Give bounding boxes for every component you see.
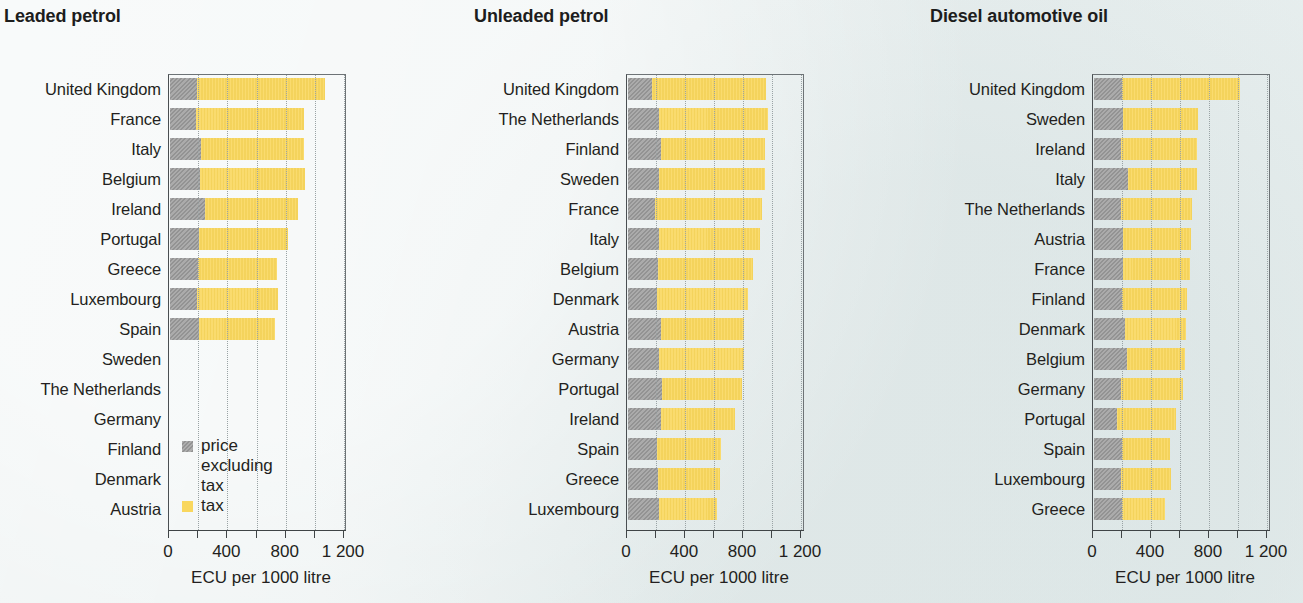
bar-track xyxy=(168,284,346,314)
axis-tick xyxy=(343,530,344,538)
bar-track xyxy=(168,194,346,224)
axis-tick xyxy=(1179,530,1180,538)
bar-row: Portugal xyxy=(880,404,1270,434)
category-label: Ireland xyxy=(0,201,168,218)
axis-tick-label: 0 xyxy=(1087,542,1096,562)
legend-label-tax: tax xyxy=(201,496,224,516)
category-label: Denmark xyxy=(0,471,168,488)
category-label: Sweden xyxy=(0,351,168,368)
category-label: Greece xyxy=(440,471,626,488)
bar-segment-price-excluding-tax xyxy=(1094,258,1124,280)
bar-segment-tax xyxy=(199,228,289,250)
axis-caption: ECU per 1000 litre xyxy=(1115,568,1255,588)
bar-row: Belgium xyxy=(0,164,346,194)
category-label: France xyxy=(0,111,168,128)
bar-segment-tax xyxy=(1123,258,1190,280)
axis-tick xyxy=(1150,530,1151,538)
bar-segment-price-excluding-tax xyxy=(628,288,658,310)
category-label: Spain xyxy=(0,321,168,338)
bar-row: Austria xyxy=(880,224,1270,254)
bar-track xyxy=(168,134,346,164)
bar-segment-price-excluding-tax xyxy=(1094,438,1122,460)
bar-segment-price-excluding-tax xyxy=(170,288,198,310)
category-label: France xyxy=(880,261,1092,278)
bar-row: The Netherlands xyxy=(880,194,1270,224)
bar-segment-price-excluding-tax xyxy=(1094,498,1122,520)
bar-row: Luxembourg xyxy=(0,284,346,314)
bar-track xyxy=(1092,344,1270,374)
stacked-bar xyxy=(170,168,306,190)
axis-tick xyxy=(1121,530,1122,538)
axis-tick xyxy=(713,530,714,538)
bar-segment-price-excluding-tax xyxy=(1094,408,1117,430)
axis-tick xyxy=(626,530,627,538)
bar-track xyxy=(1092,494,1270,524)
axis-tick xyxy=(1266,530,1267,538)
category-label: The Netherlands xyxy=(0,381,168,398)
bar-track xyxy=(626,434,804,464)
bar-track xyxy=(168,104,346,134)
axis-tick-label: 400 xyxy=(1136,542,1164,562)
bar-segment-tax xyxy=(1123,228,1191,250)
bar-segment-tax xyxy=(1122,498,1166,520)
bar-segment-price-excluding-tax xyxy=(628,198,656,220)
stacked-bar xyxy=(628,228,760,250)
category-label: Spain xyxy=(880,441,1092,458)
axis-tick-label: 800 xyxy=(1194,542,1222,562)
axis-line xyxy=(626,530,804,531)
bar-track xyxy=(626,404,804,434)
stacked-bar xyxy=(170,258,277,280)
stacked-bar xyxy=(1094,468,1172,490)
bar-track xyxy=(168,374,346,404)
bar-row: United Kingdom xyxy=(0,74,346,104)
bar-segment-tax xyxy=(659,498,717,520)
bar-row: Spain xyxy=(880,434,1270,464)
bar-segment-price-excluding-tax xyxy=(628,468,658,490)
axis-tick xyxy=(655,530,656,538)
bar-row: Finland xyxy=(440,134,804,164)
stacked-bar xyxy=(628,258,753,280)
bar-track xyxy=(168,344,346,374)
bar-segment-price-excluding-tax xyxy=(1094,198,1122,220)
stacked-bar xyxy=(1094,438,1171,460)
axis-tick-label: 1 200 xyxy=(322,542,365,562)
stacked-bar xyxy=(1094,198,1193,220)
bar-row: Denmark xyxy=(0,464,346,494)
axis-tick xyxy=(226,530,227,538)
bar-row: Spain xyxy=(440,434,804,464)
category-label: Austria xyxy=(0,501,168,518)
category-label: United Kingdom xyxy=(0,81,168,98)
stacked-bar xyxy=(628,288,748,310)
stacked-bar xyxy=(628,438,722,460)
stacked-bar xyxy=(628,108,768,130)
stacked-bar xyxy=(170,138,305,160)
category-label: Belgium xyxy=(880,351,1092,368)
category-label: Finland xyxy=(440,141,626,158)
stacked-bar xyxy=(1094,348,1185,370)
bar-rows-diesel-automotive-oil: United KingdomSwedenIrelandItalyThe Neth… xyxy=(880,74,1270,524)
axis-tick-label: 1 200 xyxy=(1245,542,1288,562)
stacked-bar xyxy=(1094,258,1190,280)
bar-segment-tax xyxy=(1127,348,1185,370)
bar-segment-price-excluding-tax xyxy=(170,258,198,280)
chart-legend: price excluding tax tax xyxy=(182,436,273,516)
category-label: Austria xyxy=(880,231,1092,248)
bar-track xyxy=(626,314,804,344)
category-label: Denmark xyxy=(440,291,626,308)
bar-segment-tax xyxy=(661,138,765,160)
bar-row: Greece xyxy=(880,494,1270,524)
bar-track xyxy=(168,224,346,254)
stacked-bar xyxy=(628,408,735,430)
bar-segment-price-excluding-tax xyxy=(170,318,199,340)
category-label: Finland xyxy=(880,291,1092,308)
bar-track xyxy=(1092,194,1270,224)
category-label: Sweden xyxy=(880,111,1092,128)
bar-track xyxy=(626,344,804,374)
bar-segment-tax xyxy=(200,168,305,190)
axis-line xyxy=(168,530,346,531)
bar-row: The Netherlands xyxy=(0,374,346,404)
bar-segment-price-excluding-tax xyxy=(1094,78,1122,100)
bar-segment-price-excluding-tax xyxy=(628,498,659,520)
bar-segment-tax xyxy=(655,198,762,220)
bar-track xyxy=(1092,314,1270,344)
